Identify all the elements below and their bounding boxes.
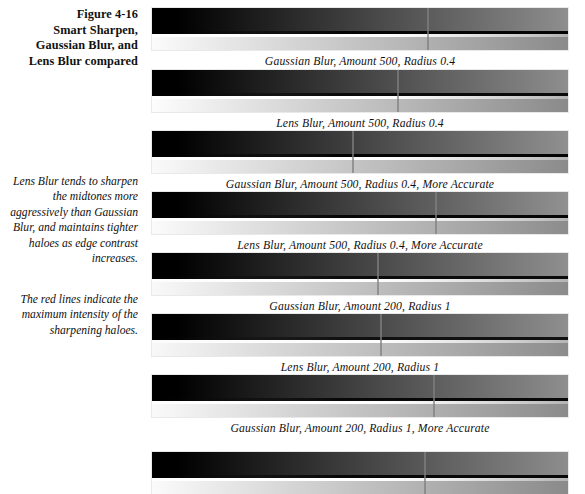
strip-label: Gaussian Blur, Amount 200, Radius 1, Mor… <box>152 417 568 435</box>
light-halo <box>152 279 568 282</box>
strip-group: Lens Blur, Amount 500, Radius 0.4 <box>152 70 568 130</box>
strip-label: Gaussian Blur, Amount 500, Radius 0.4, M… <box>152 173 568 191</box>
light-halo <box>152 340 568 343</box>
gradient-strip <box>152 70 568 112</box>
strip-label: Lens Blur, Amount 200, Radius 1 <box>152 356 568 374</box>
strip-label: Gaussian Blur, Amount 200, Radius 1 <box>152 295 568 313</box>
gradient-strip <box>152 375 568 417</box>
strip-group: Lens Blur, Amount 200, Radius 1 <box>152 314 568 374</box>
strip-label: Gaussian Blur, Amount 500, Radius 0.4 <box>152 50 568 68</box>
max-intensity-marker-line <box>427 8 429 50</box>
figure-title-line-1: Smart Sharpen, <box>2 23 138 39</box>
light-halo <box>152 478 568 481</box>
max-intensity-marker-line <box>433 375 435 417</box>
gradient-strip <box>152 314 568 356</box>
gradient-strip-list: Gaussian Blur, Amount 500, Radius 0.4Len… <box>152 0 568 494</box>
note-lens-blur-behaviour: Lens Blur tends to sharpen the midtones … <box>2 174 138 266</box>
gradient-strip <box>152 192 568 234</box>
strip-group: Gaussian Blur, Amount 500, Radius 0.4, M… <box>152 131 568 191</box>
gradient-strip <box>152 452 568 494</box>
gradient-strip <box>152 8 568 50</box>
max-intensity-marker-line <box>435 192 437 234</box>
light-halo <box>152 401 568 404</box>
strip-group: Gaussian Blur, Amount 200, Radius 1, Mor… <box>152 375 568 435</box>
strip-label: Lens Blur, Amount 500, Radius 0.4 <box>152 112 568 130</box>
strip-group <box>152 452 568 494</box>
max-intensity-marker-line <box>377 253 379 295</box>
light-halo <box>152 34 568 37</box>
gradient-strip <box>152 131 568 173</box>
max-intensity-marker-line <box>380 314 382 356</box>
max-intensity-marker-line <box>397 70 399 112</box>
strip-group: Lens Blur, Amount 500, Radius 0.4, More … <box>152 192 568 252</box>
strip-group: Gaussian Blur, Amount 500, Radius 0.4 <box>152 8 568 68</box>
strip-group: Gaussian Blur, Amount 200, Radius 1 <box>152 253 568 313</box>
light-halo <box>152 157 568 160</box>
max-intensity-marker-line <box>424 452 426 494</box>
figure-number: Figure 4-16 <box>2 7 138 23</box>
gradient-strip <box>152 253 568 295</box>
light-halo <box>152 96 568 99</box>
figure-caption: Figure 4-16 Smart Sharpen, Gaussian Blur… <box>2 7 138 69</box>
figure-title-line-2: Gaussian Blur, and <box>2 38 138 54</box>
note-red-lines: The red lines indicate the maximum inten… <box>2 292 138 338</box>
max-intensity-marker-line <box>352 131 354 173</box>
light-halo <box>152 218 568 221</box>
caption-column: Figure 4-16 Smart Sharpen, Gaussian Blur… <box>0 0 146 494</box>
figure-title-line-3: Lens Blur compared <box>2 54 138 70</box>
strip-label: Lens Blur, Amount 500, Radius 0.4, More … <box>152 234 568 252</box>
